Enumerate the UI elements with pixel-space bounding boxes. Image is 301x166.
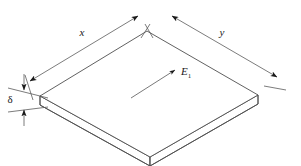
y-dimension-ext-right: [264, 86, 286, 90]
delta-thickness-label: δ: [7, 93, 12, 105]
field-vector-subscript: 1: [188, 72, 192, 80]
x-dimension-ext-left: [25, 75, 33, 100]
plate-diagram-svg: x y δ E1: [0, 0, 301, 166]
x-dimension-label: x: [79, 26, 85, 38]
figure-container: x y δ E1: [0, 0, 301, 166]
y-dimension-label: y: [219, 26, 225, 38]
delta-ext-line-lower: [8, 107, 48, 112]
delta-ext-line-upper: [8, 88, 48, 98]
plate-top-face: [40, 31, 258, 157]
